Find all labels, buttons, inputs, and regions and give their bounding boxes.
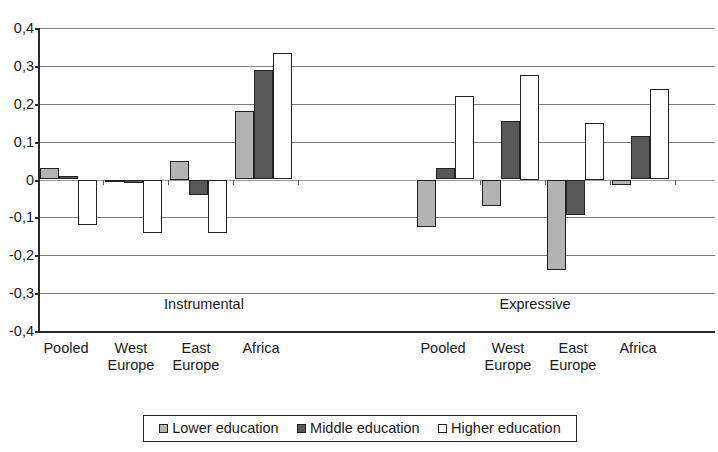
bar-expressive-africa-lower-education [612,180,631,186]
y-tick-mark [35,331,40,333]
y-tick-label: 0,4 [0,21,34,36]
legend-label-lower-education: Lower education [172,421,278,436]
x-minor-tick [480,180,481,185]
bar-instrumental-east-europe-higher-education [208,180,227,233]
y-tick-mark [35,66,40,68]
bar-instrumental-west-europe-lower-education [105,180,124,182]
gridline-0,2 [40,104,715,105]
gridline--0,2 [40,255,715,256]
legend-swatch-lower-education [159,424,168,433]
category-label-expressive-africa: Africa [593,340,683,357]
chart-figure: InstrumentalExpressive 0,40,30,20,10-0,1… [0,0,718,452]
x-minor-tick [233,180,234,185]
bar-expressive-west-europe-lower-education [482,180,501,207]
legend-item-higher-education: Higher education [438,421,561,436]
bar-expressive-east-europe-higher-education [585,123,604,180]
category-label-instrumental-africa: Africa [216,340,306,357]
gridline--0,1 [40,217,715,218]
legend-label-middle-education: Middle education [310,421,420,436]
y-tick-mark [35,293,40,295]
x-minor-tick [545,180,546,185]
bar-expressive-pooled-lower-education [417,180,436,227]
gridline--0,4 [40,331,715,333]
y-tick-mark [35,142,40,144]
x-minor-tick [103,180,104,185]
bar-expressive-africa-middle-education [631,136,650,180]
y-tick-mark [35,104,40,106]
y-tick-label: -0,2 [0,248,34,263]
bar-instrumental-pooled-higher-education [78,180,97,225]
bar-instrumental-africa-higher-education [273,53,292,180]
bar-instrumental-east-europe-middle-education [189,180,208,195]
gridline--0,3 [40,293,715,294]
bar-expressive-west-europe-middle-education [501,121,520,180]
bar-instrumental-pooled-middle-education [59,176,78,180]
chart-legend: Lower education Middle education Higher … [143,415,577,442]
y-tick-label: 0,1 [0,135,34,150]
x-minor-tick [168,180,169,185]
bar-instrumental-west-europe-higher-education [143,180,162,233]
y-tick-label: -0,4 [0,324,34,339]
y-tick-mark [35,28,40,30]
bar-instrumental-africa-lower-education [235,111,254,179]
y-tick-mark [35,255,40,257]
panel-label-expressive: Expressive [465,297,605,312]
y-tick-label: 0,2 [0,97,34,112]
legend-swatch-higher-education [438,424,447,433]
legend-label-higher-education: Higher education [451,421,561,436]
bar-expressive-africa-higher-education [650,89,669,180]
y-tick-label: -0,3 [0,286,34,301]
y-tick-mark [35,180,40,182]
bar-instrumental-africa-middle-education [254,70,273,180]
bar-expressive-pooled-middle-education [436,168,455,179]
bar-instrumental-west-europe-middle-education [124,180,143,184]
y-tick-label: 0,3 [0,59,34,74]
gridline-0,1 [40,142,715,143]
bar-instrumental-pooled-lower-education [40,168,59,179]
bar-expressive-west-europe-higher-education [520,75,539,179]
y-tick-label: -0,1 [0,210,34,225]
plot-area: InstrumentalExpressive [38,28,715,331]
bar-expressive-east-europe-middle-education [566,180,585,216]
legend-item-lower-education: Lower education [159,421,278,436]
bar-instrumental-east-europe-lower-education [170,161,189,180]
x-minor-tick [610,180,611,185]
legend-swatch-middle-education [297,424,306,433]
gridline-0,4 [40,28,715,29]
panel-label-instrumental: Instrumental [134,297,274,312]
legend-item-middle-education: Middle education [297,421,420,436]
bar-expressive-east-europe-lower-education [547,180,566,271]
y-tick-mark [35,217,40,219]
x-minor-tick [298,180,299,185]
bar-expressive-pooled-higher-education [455,96,474,179]
x-minor-tick [675,180,676,185]
y-tick-label: 0 [0,173,34,188]
gridline-0,3 [40,66,715,67]
